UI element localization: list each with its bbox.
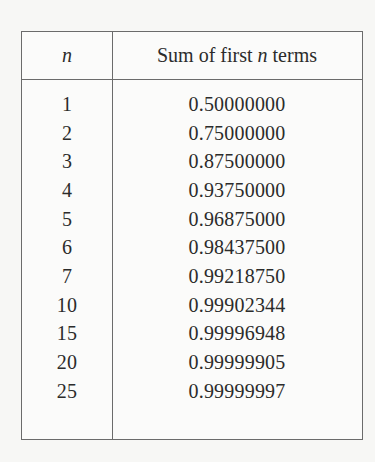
cell-n: 6: [22, 236, 112, 259]
table-row: 150.99996948: [22, 320, 362, 349]
cell-sum: 0.50000000: [112, 93, 362, 116]
table-row: 50.96875000: [22, 205, 362, 234]
header-sum-var: n: [258, 44, 268, 66]
table-row: 250.99999997: [22, 377, 362, 406]
cell-sum: 0.99999997: [112, 380, 362, 403]
partial-sums-table: n Sum of first n terms 10.50000000 20.75…: [21, 31, 363, 440]
cell-sum: 0.98437500: [112, 236, 362, 259]
cell-n: 10: [22, 294, 112, 317]
cell-n: 3: [22, 150, 112, 173]
cell-n: 15: [22, 322, 112, 345]
header-sum-prefix: Sum of first: [157, 44, 258, 66]
table-row: 30.87500000: [22, 147, 362, 176]
cell-n: 2: [22, 122, 112, 145]
cell-n: 1: [22, 93, 112, 116]
cell-sum: 0.75000000: [112, 122, 362, 145]
cell-n: 20: [22, 351, 112, 374]
table-row: 200.99999905: [22, 348, 362, 377]
cell-n: 4: [22, 179, 112, 202]
cell-sum: 0.99218750: [112, 265, 362, 288]
table-row: 60.98437500: [22, 233, 362, 262]
table-body: 10.50000000 20.75000000 30.87500000 40.9…: [22, 90, 362, 406]
cell-n: 5: [22, 208, 112, 231]
cell-n: 7: [22, 265, 112, 288]
header-sum-suffix: terms: [268, 44, 317, 66]
cell-sum: 0.99996948: [112, 322, 362, 345]
cell-sum: 0.93750000: [112, 179, 362, 202]
table-row: 20.75000000: [22, 119, 362, 148]
cell-sum: 0.99999905: [112, 351, 362, 374]
header-divider: [22, 79, 362, 80]
cell-sum: 0.99902344: [112, 294, 362, 317]
cell-sum: 0.87500000: [112, 150, 362, 173]
cell-sum: 0.96875000: [112, 208, 362, 231]
header-sum: Sum of first n terms: [112, 44, 362, 67]
table-row: 100.99902344: [22, 291, 362, 320]
header-n: n: [22, 44, 112, 67]
table-row: 70.99218750: [22, 262, 362, 291]
cell-n: 25: [22, 380, 112, 403]
table-header: n Sum of first n terms: [22, 32, 362, 79]
table-row: 10.50000000: [22, 90, 362, 119]
table-row: 40.93750000: [22, 176, 362, 205]
